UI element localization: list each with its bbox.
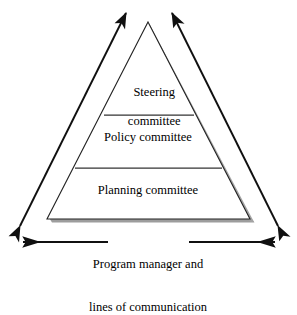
communication-caption-line2: lines of communication — [58, 300, 238, 314]
pyramid-outline — [47, 22, 250, 219]
